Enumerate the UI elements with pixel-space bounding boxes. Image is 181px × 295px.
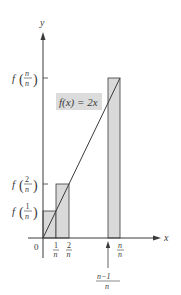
- y-label-f-2-over-n: f ( 2 n ): [12, 175, 38, 194]
- svg-text:): ): [33, 178, 38, 194]
- svg-text:): ): [33, 72, 38, 88]
- rectangle-n: [108, 78, 120, 238]
- svg-text:n: n: [118, 241, 122, 250]
- svg-text:n: n: [25, 212, 29, 221]
- y-label-f-n-over-n: f ( n n ): [12, 69, 38, 88]
- x-axis-label: x: [163, 232, 169, 243]
- svg-text:1: 1: [26, 202, 30, 211]
- function-label: f(x) = 2x: [59, 96, 98, 109]
- svg-text:f: f: [12, 205, 17, 217]
- rectangle-2: [56, 184, 69, 238]
- svg-text:n: n: [54, 250, 58, 259]
- svg-text:): ): [33, 205, 38, 221]
- y-label-f-1-over-n: f ( 1 n ): [12, 202, 38, 221]
- svg-text:f: f: [12, 178, 17, 190]
- svg-text:f: f: [12, 72, 17, 84]
- x-label-n-over-n: n n: [117, 241, 124, 259]
- svg-text:n: n: [67, 250, 71, 259]
- y-axis-arrow-icon: [41, 32, 46, 40]
- pointer-arrow-icon: [106, 241, 110, 248]
- svg-text:(: (: [19, 72, 24, 88]
- x-label-n-minus-1-over-n: n−1 n: [96, 272, 120, 291]
- svg-text:n: n: [25, 69, 29, 78]
- svg-text:(: (: [19, 178, 24, 194]
- svg-text:(: (: [19, 205, 24, 221]
- svg-text:n: n: [118, 250, 122, 259]
- riemann-diagram: f(x) = 2x y x 0 f ( n n ) f ( 2 n ) f ( …: [0, 0, 181, 295]
- x-label-2-over-n: 2 n: [66, 241, 72, 259]
- svg-text:n−1: n−1: [97, 272, 110, 281]
- svg-text:n: n: [25, 79, 29, 88]
- x-axis-arrow-icon: [153, 236, 161, 241]
- svg-text:2: 2: [25, 175, 29, 184]
- origin-label: 0: [34, 242, 39, 252]
- x-label-1-over-n: 1 n: [53, 241, 59, 259]
- svg-text:2: 2: [67, 241, 71, 250]
- y-axis-label: y: [39, 17, 45, 28]
- svg-text:1: 1: [54, 241, 58, 250]
- svg-text:n: n: [105, 282, 109, 291]
- svg-text:n: n: [25, 185, 29, 194]
